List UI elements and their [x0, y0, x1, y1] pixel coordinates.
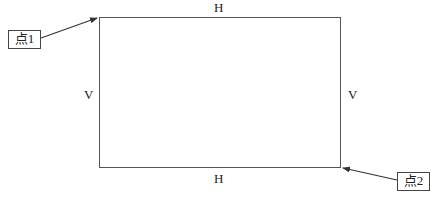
point-2-label-box: 点2	[397, 172, 430, 191]
point-1-label: 点1	[15, 31, 35, 46]
point-1-label-box: 点1	[8, 30, 41, 49]
arrow-point-2	[343, 168, 397, 180]
arrows-layer	[0, 0, 431, 206]
arrow-point-1	[41, 18, 97, 38]
point-2-label: 点2	[404, 173, 424, 188]
diagram-canvas: H H V V 点1 点2	[0, 0, 431, 206]
